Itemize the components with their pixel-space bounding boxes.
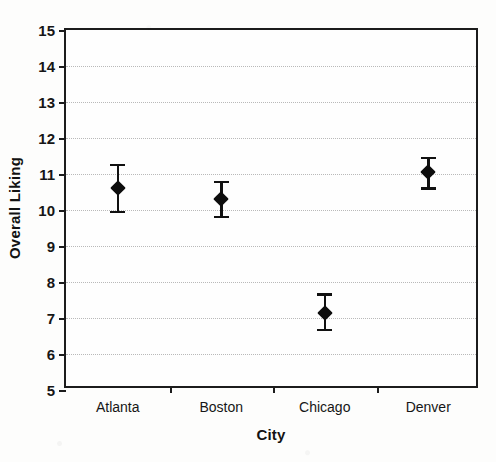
y-axis-tick-label: 13 bbox=[38, 94, 55, 111]
y-axis-tick-label: 14 bbox=[38, 58, 55, 75]
y-axis-tick-label: 12 bbox=[38, 130, 55, 147]
error-bar-cap-lower bbox=[214, 216, 229, 219]
data-point-marker bbox=[213, 191, 229, 207]
gridline bbox=[66, 354, 476, 355]
gridline bbox=[66, 282, 476, 283]
y-axis-tick bbox=[59, 30, 66, 32]
y-axis-tick-label: 7 bbox=[47, 310, 55, 327]
x-axis-tick-label: Denver bbox=[406, 399, 451, 415]
data-point-marker bbox=[110, 181, 126, 197]
y-axis-tick bbox=[59, 246, 66, 248]
x-axis-tick bbox=[377, 386, 379, 393]
x-axis-tick-label: Chicago bbox=[299, 399, 350, 415]
y-axis-tick-label: 9 bbox=[47, 238, 55, 255]
data-point-marker bbox=[420, 164, 436, 180]
error-bar-cap-upper bbox=[317, 293, 332, 296]
y-axis-tick-label: 10 bbox=[38, 202, 55, 219]
y-axis-tick bbox=[59, 174, 66, 176]
y-axis-tick bbox=[59, 210, 66, 212]
gridline bbox=[66, 210, 476, 211]
plot-area: 56789101112131415 AtlantaBostonChicagoDe… bbox=[64, 28, 478, 388]
gridline bbox=[66, 318, 476, 319]
error-bar-cap-lower bbox=[317, 329, 332, 332]
y-axis-tick bbox=[59, 390, 66, 392]
y-axis-tick-label: 5 bbox=[47, 382, 55, 399]
error-bar-cap-upper bbox=[110, 164, 125, 167]
error-bar-cap-upper bbox=[214, 181, 229, 184]
y-axis-tick bbox=[59, 138, 66, 140]
y-axis-tick bbox=[59, 318, 66, 320]
error-bar-cap-upper bbox=[421, 157, 436, 160]
gridline bbox=[66, 138, 476, 139]
y-axis-tick bbox=[59, 354, 66, 356]
x-axis-tick bbox=[273, 386, 275, 393]
gridline bbox=[66, 174, 476, 175]
y-axis-tick-label: 6 bbox=[47, 346, 55, 363]
y-axis-tick-label: 11 bbox=[39, 166, 55, 183]
x-axis-title: City bbox=[256, 426, 285, 443]
y-axis-tick bbox=[59, 102, 66, 104]
chart-figure: Overall Liking 56789101112131415 Atlanta… bbox=[0, 0, 496, 462]
gridline bbox=[66, 102, 476, 103]
y-axis-tick-label: 8 bbox=[47, 274, 55, 291]
gridline bbox=[66, 66, 476, 67]
x-axis-tick-label: Boston bbox=[199, 399, 243, 415]
y-axis-title: Overall Liking bbox=[6, 157, 23, 259]
y-axis-tick bbox=[59, 66, 66, 68]
x-axis-tick bbox=[170, 386, 172, 393]
gridline bbox=[66, 246, 476, 247]
y-axis-tick bbox=[59, 282, 66, 284]
error-bar-cap-lower bbox=[110, 211, 125, 214]
x-axis-tick-label: Atlanta bbox=[96, 399, 140, 415]
y-axis-tick-label: 15 bbox=[38, 22, 55, 39]
error-bar-cap-lower bbox=[421, 187, 436, 190]
